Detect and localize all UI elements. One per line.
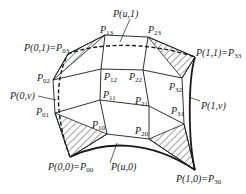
label-p-u-0: P(u,0) <box>110 161 137 173</box>
label-p13: P13 <box>99 24 114 37</box>
label-p01: P01 <box>35 106 50 119</box>
label-p-0-v: P(0,v) <box>9 90 35 102</box>
label-p11-corner: P(1,1)=P33 <box>195 47 242 60</box>
net-col-2 <box>143 37 149 139</box>
hatch-corner-30 <box>149 124 195 170</box>
label-p23: P23 <box>147 24 162 37</box>
label-p12: P12 <box>103 71 118 84</box>
label-p02: P02 <box>36 72 51 85</box>
label-p-u-1: P(u,1) <box>112 8 139 20</box>
label-p11: P11 <box>102 89 116 102</box>
label-p01-corner: P(0,1)=P03 <box>23 42 70 55</box>
hatch-corner-33 <box>148 37 195 78</box>
label-p10-corner: P(1,0)=P30 <box>175 173 222 186</box>
bezier-patch-diagram: P(u,1) P13 P23 P(0,1)=P03 P(1,1)=P33 P02… <box>0 0 246 194</box>
label-p22: P22 <box>128 71 143 84</box>
label-p-1-v: P(1,v) <box>200 100 226 112</box>
net-col-1 <box>100 35 107 134</box>
label-p31: P31 <box>170 105 185 118</box>
label-p21: P21 <box>134 95 149 108</box>
label-p00-corner: P(0,0)=P00 <box>47 161 94 174</box>
label-p32: P32 <box>168 81 183 94</box>
label-p20: P20 <box>134 125 149 138</box>
net-row-2 <box>53 69 182 80</box>
